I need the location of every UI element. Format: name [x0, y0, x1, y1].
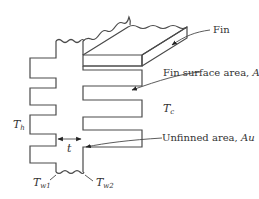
tw1-label: Tw1 — [33, 176, 51, 190]
fin-surface-area-label: Fin surface area, Af — [163, 67, 259, 80]
tw2-label: Tw2 — [96, 176, 114, 190]
left-wall-profile — [30, 41, 56, 172]
unfinned-area-label: Unfinned area, Au — [162, 132, 255, 143]
thickness-label: t — [67, 142, 72, 155]
fin-3d-top-face — [83, 27, 187, 55]
top-break-line — [56, 40, 84, 43]
tc-label: Tc — [163, 102, 174, 116]
th-label: Th — [13, 118, 25, 132]
fin-3d-front-face — [83, 55, 142, 66]
tw1-leader — [50, 175, 56, 180]
right-wall-profile — [83, 41, 142, 172]
fin-label: Fin — [213, 24, 230, 35]
finned-wall-diagram: Fin Fin surface area, Af Tc Unfinned are… — [0, 0, 259, 199]
tw2-leader — [85, 175, 93, 181]
unfinned-leader — [86, 138, 162, 147]
bottom-break-line — [56, 171, 84, 174]
fin-3d-right-face — [142, 27, 187, 66]
